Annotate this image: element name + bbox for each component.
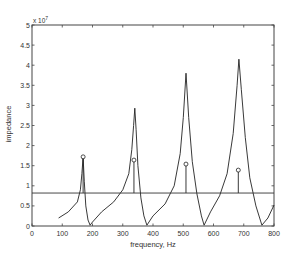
x-tick-label: 100	[56, 230, 68, 237]
x-tick-label: 800	[268, 230, 280, 237]
y-tick-label: 4	[26, 62, 30, 69]
x-tick-label: 700	[238, 230, 250, 237]
stem-marker	[236, 168, 240, 172]
y-tick-label: 1	[26, 182, 30, 189]
y-tick-label: 3	[26, 102, 30, 109]
impedance-chart: 010020030040050060070080000.511.522.533.…	[0, 0, 295, 256]
y-axis-label: impedance	[4, 106, 13, 143]
y-tick-label: 0.5	[20, 202, 30, 209]
y-tick-label: 5	[26, 22, 30, 29]
x-tick-label: 500	[177, 230, 189, 237]
x-tick-label: 200	[87, 230, 99, 237]
y-tick-label: 1.5	[20, 162, 30, 169]
y-tick-label: 4.5	[20, 42, 30, 49]
x-tick-label: 600	[208, 230, 220, 237]
stem-marker	[81, 155, 85, 159]
plot-frame	[32, 25, 274, 226]
x-tick-label: 0	[30, 230, 34, 237]
impedance-curve	[59, 59, 274, 225]
stem-marker	[184, 162, 188, 166]
x-tick-label: 300	[117, 230, 129, 237]
y-tick-label: 0	[26, 223, 30, 230]
plot-axes	[32, 25, 274, 226]
data-series	[32, 59, 274, 225]
stem-marker	[132, 158, 136, 162]
x-axis-label: frequency, Hz	[130, 240, 176, 249]
x-tick-label: 400	[147, 230, 159, 237]
y-tick-label: 3.5	[20, 82, 30, 89]
y-tick-label: 2.5	[20, 122, 30, 129]
y-exponent-label: x 107	[33, 15, 48, 24]
axis-ticks: 010020030040050060070080000.511.522.533.…	[20, 22, 280, 238]
y-tick-label: 2	[26, 142, 30, 149]
